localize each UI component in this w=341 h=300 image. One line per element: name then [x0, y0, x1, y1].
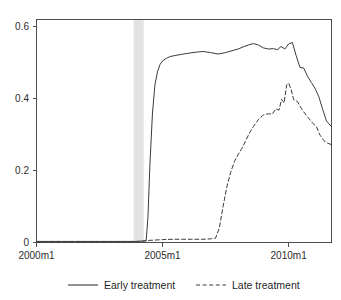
line-chart-figure: 0.6 0.4 0.2 0 2000m1 2005m1 2010m1 Early… [0, 0, 341, 300]
y-tick-label-1: 0.2 [15, 165, 29, 176]
y-tick-label-0: 0 [23, 237, 29, 248]
plot-frame [37, 20, 332, 243]
chart-svg: 0.6 0.4 0.2 0 2000m1 2005m1 2010m1 Early… [0, 0, 341, 300]
x-tick-label-1: 2005m1 [144, 250, 181, 261]
y-tick-label-2: 0.4 [15, 93, 29, 104]
y-tick-label-3: 0.6 [15, 21, 29, 32]
series-group [37, 43, 332, 242]
legend: Early treatment Late treatment [68, 279, 300, 291]
series-line-late-treatment [37, 83, 332, 242]
shaded-period-band [134, 20, 144, 243]
axis-frame-path [37, 20, 332, 243]
y-axis-ticks: 0.6 0.4 0.2 0 [15, 21, 36, 248]
x-axis-ticks: 2000m1 2005m1 2010m1 [18, 243, 307, 262]
series-line-early-treatment [37, 43, 332, 242]
x-tick-label-0: 2000m1 [18, 250, 55, 261]
legend-label-late-treatment: Late treatment [232, 279, 300, 291]
legend-label-early-treatment: Early treatment [104, 279, 175, 291]
x-tick-label-2: 2010m1 [271, 250, 308, 261]
plot-background-band-group [134, 20, 144, 243]
